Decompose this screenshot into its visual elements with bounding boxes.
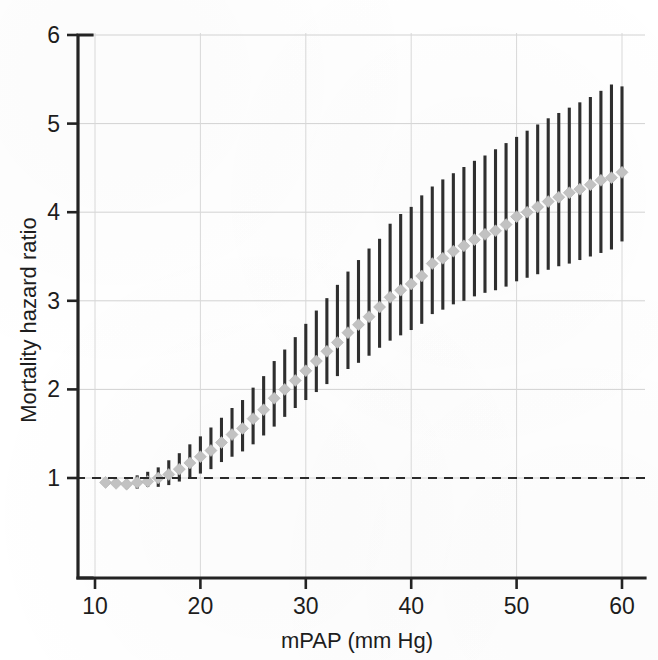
point-marker-30 <box>300 365 312 377</box>
point-marker-60 <box>616 166 628 178</box>
y-axis-title: Mortality hazard ratio <box>16 217 41 422</box>
point-marker-53 <box>542 196 554 208</box>
point-marker-52 <box>532 201 544 213</box>
point-marker-55 <box>563 187 575 199</box>
y-axis-line <box>78 35 92 578</box>
y-tick-label-1: 1 <box>47 465 60 491</box>
point-marker-27 <box>268 392 280 404</box>
point-marker-22 <box>215 437 227 449</box>
x-tick-label-30: 30 <box>293 593 319 619</box>
point-marker-21 <box>205 445 217 457</box>
point-marker-43 <box>437 252 449 264</box>
point-marker-38 <box>384 291 396 303</box>
y-axis-ticks <box>67 35 78 478</box>
y-tick-label-2: 2 <box>47 376 60 402</box>
point-marker-29 <box>289 375 301 387</box>
point-marker-41 <box>416 270 428 282</box>
point-marker-46 <box>468 234 480 246</box>
point-marker-13 <box>121 478 133 490</box>
confidence-interval-bars <box>106 85 622 489</box>
x-tick-label-50: 50 <box>504 593 530 619</box>
point-marker-12 <box>110 477 122 489</box>
x-axis-ticks <box>95 578 622 589</box>
point-marker-36 <box>363 311 375 323</box>
x-tick-label-20: 20 <box>188 593 214 619</box>
x-tick-label-40: 40 <box>398 593 424 619</box>
y-tick-label-5: 5 <box>47 111 60 137</box>
point-marker-39 <box>395 284 407 296</box>
point-marker-26 <box>258 404 270 416</box>
point-marker-54 <box>553 191 565 203</box>
point-marker-57 <box>584 179 596 191</box>
point-marker-20 <box>194 451 206 463</box>
figure-panel: 123456 102030405060 Mortality hazard rat… <box>0 0 658 660</box>
point-marker-47 <box>479 228 491 240</box>
point-marker-49 <box>500 219 512 231</box>
point-marker-42 <box>426 258 438 270</box>
point-marker-44 <box>447 245 459 257</box>
y-tick-label-4: 4 <box>47 199 60 225</box>
point-marker-59 <box>605 172 617 184</box>
point-marker-56 <box>574 183 586 195</box>
point-marker-33 <box>331 336 343 348</box>
point-marker-31 <box>310 355 322 367</box>
point-marker-24 <box>237 422 249 434</box>
x-axis-title: mPAP (mm Hg) <box>281 628 433 653</box>
x-axis-tick-labels: 102030405060 <box>82 593 635 619</box>
point-marker-19 <box>184 457 196 469</box>
x-tick-label-10: 10 <box>82 593 108 619</box>
point-marker-45 <box>458 240 470 252</box>
y-tick-label-3: 3 <box>47 288 60 314</box>
y-axis-tick-labels: 123456 <box>47 22 60 491</box>
point-marker-32 <box>321 345 333 357</box>
point-marker-48 <box>490 225 502 237</box>
x-tick-label-60: 60 <box>609 593 635 619</box>
point-marker-35 <box>353 319 365 331</box>
point-marker-18 <box>173 463 185 475</box>
point-marker-51 <box>521 206 533 218</box>
point-marker-40 <box>405 278 417 290</box>
point-marker-34 <box>342 327 354 339</box>
hazard-ratio-chart: 123456 102030405060 Mortality hazard rat… <box>0 0 658 660</box>
point-marker-28 <box>279 383 291 395</box>
point-marker-23 <box>226 429 238 441</box>
point-marker-37 <box>374 301 386 313</box>
point-marker-58 <box>595 174 607 186</box>
point-marker-25 <box>247 413 259 425</box>
y-tick-label-6: 6 <box>47 22 60 48</box>
